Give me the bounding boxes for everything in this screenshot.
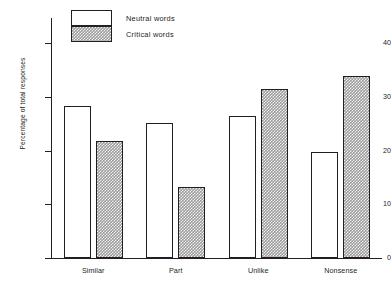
y-tick-10: [45, 204, 52, 205]
y-axis-title: Percentage of total responses: [19, 19, 26, 189]
plot-area: [52, 20, 382, 258]
bar-nonsense-critical: [343, 76, 370, 258]
bar-unlike-critical: [261, 89, 288, 258]
bar-similar-neutral: [64, 106, 91, 258]
bar-chart: Neutral words Critical words 010203040 P…: [0, 0, 391, 286]
bar-unlike-neutral: [229, 116, 256, 258]
x-label-unlike: Unlike: [217, 266, 300, 275]
x-label-similar: Similar: [52, 266, 135, 275]
x-label-part: Part: [135, 266, 218, 275]
bar-similar-critical: [96, 141, 123, 258]
bar-part-neutral: [146, 123, 173, 258]
bar-nonsense-neutral: [311, 152, 338, 258]
y-tick-20: [45, 151, 52, 152]
x-axis-line: [51, 258, 382, 259]
y-tick-40: [45, 43, 52, 44]
y-tick-0: [45, 258, 52, 259]
y-tick-30: [45, 97, 52, 98]
bar-part-critical: [178, 187, 205, 258]
x-label-nonsense: Nonsense: [300, 266, 383, 275]
